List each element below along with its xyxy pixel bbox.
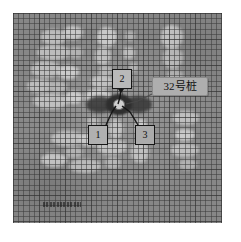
anomaly-blob <box>33 93 69 109</box>
anomaly-blob <box>175 129 195 141</box>
anomaly-blob <box>109 119 123 139</box>
caption-smudge <box>43 202 81 207</box>
anomaly-blob <box>69 159 101 173</box>
anomaly-blob <box>49 81 67 93</box>
anomaly-blob <box>95 47 111 65</box>
anomaly-blob <box>41 153 67 167</box>
anomaly-blob <box>65 147 83 158</box>
anomaly-blob <box>63 26 83 40</box>
anomaly-blob <box>123 47 135 59</box>
anomaly-blob <box>179 159 197 170</box>
anomaly-blob <box>163 47 183 69</box>
anomaly-blob <box>37 45 71 60</box>
callout-box-1[interactable]: 1 <box>88 125 108 145</box>
anomaly-blob <box>69 47 83 58</box>
anomaly-blob <box>171 143 199 157</box>
anomaly-blob <box>125 31 135 41</box>
callout-label-1: 1 <box>96 129 101 140</box>
callout-label-3: 3 <box>143 129 148 140</box>
figure-root: 2 1 3 32号桩 <box>0 0 241 242</box>
anomaly-blob <box>65 91 83 104</box>
tomography-image-plate <box>13 13 222 223</box>
pile-name-label[interactable]: 32号桩 <box>152 77 208 96</box>
anomaly-blob <box>161 25 183 49</box>
anomaly-blob <box>97 27 117 47</box>
anomaly-blob <box>85 89 111 105</box>
callout-box-3[interactable]: 3 <box>135 125 155 145</box>
anomaly-blob <box>173 111 199 125</box>
callout-label-2: 2 <box>120 73 125 84</box>
anomaly-blob <box>105 157 121 169</box>
callout-box-2[interactable]: 2 <box>112 69 132 89</box>
anomaly-blob <box>91 75 113 89</box>
anomaly-blob <box>57 65 79 79</box>
